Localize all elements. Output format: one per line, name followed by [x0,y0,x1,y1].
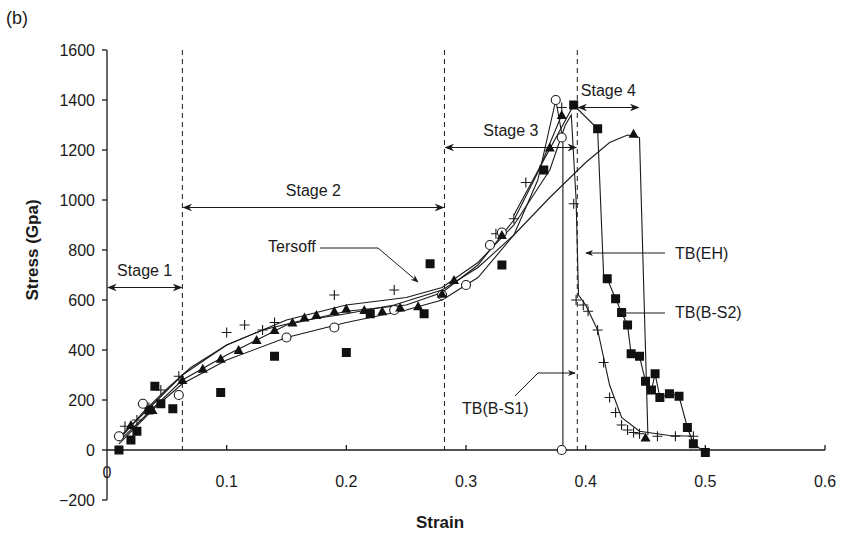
y-tick-label: 200 [68,392,95,409]
plus-marker [670,431,680,441]
square-marker [342,348,351,357]
square-marker [603,274,612,283]
circle-marker [551,96,560,105]
y-tick-label: 1000 [59,192,95,209]
square-marker [168,404,177,413]
y-tick-labels: −20002004006008001000120014001600 [59,42,95,509]
square-marker [647,386,656,395]
square-marker [675,392,684,401]
stage-label: Stage 3 [483,122,538,139]
triangle-marker [299,313,309,322]
y-tick-label: 0 [86,442,95,459]
x-tick-label: 0.3 [455,473,477,490]
circle-marker [114,432,123,441]
failure-drop [640,138,648,436]
square-marker [665,389,674,398]
circle-marker [174,391,183,400]
plus-marker [329,290,339,300]
square-marker [683,423,692,432]
square-marker [420,309,429,318]
y-tick-label: −200 [59,492,95,509]
plus-marker [652,431,662,441]
fit-curves [119,100,705,453]
y-axis-label: Stress (Gpa) [23,199,42,300]
plus-marker [222,328,232,338]
square-marker [623,321,632,330]
square-marker [569,101,578,110]
stress-strain-chart: (b) −20002004006008001000120014001600 00… [0,0,855,545]
plus-marker [240,320,250,330]
square-marker [114,446,123,455]
circle-marker [462,281,471,290]
data-markers [114,96,709,458]
stage-arrows: Stage 1Stage 2Stage 3Stage 4 [108,82,639,288]
annotation-arrow [515,373,575,396]
y-tick-label: 1600 [59,42,95,59]
triangle-marker [252,335,262,344]
fit-curve [119,115,562,441]
annotation-arrow [320,248,418,282]
x-tick-label: 0.1 [216,473,238,490]
square-marker [156,399,165,408]
square-marker [655,393,664,402]
circle-marker [330,323,339,332]
plus-marker [258,325,268,335]
plus-marker [623,425,633,435]
fit-curve [119,135,640,440]
plus-marker [509,214,519,224]
square-marker [651,369,660,378]
fit-curve [119,100,563,450]
square-marker [641,377,650,386]
square-marker [270,352,279,361]
annotation-label: TB(EH) [675,245,728,262]
y-tick-label: 1400 [59,92,95,109]
square-marker [701,448,710,457]
annotation-label: TB(B-S1) [462,400,529,417]
panel-label: (b) [6,8,28,28]
triangle-marker [198,364,208,373]
stage-label: Stage 1 [117,262,172,279]
circle-marker [485,241,494,250]
x-tick-label: 0.6 [814,473,836,490]
plus-marker [599,358,609,368]
x-tick-labels: 00.10.20.30.40.50.6 [103,464,837,490]
stage-label: Stage 4 [581,82,636,99]
y-tick-label: 800 [68,242,95,259]
x-axis-label: Strain [416,513,464,532]
square-marker [216,388,225,397]
y-tick-label: 400 [68,342,95,359]
x-tick-label: 0.5 [694,473,716,490]
triangle-marker [234,345,244,354]
x-tick-label: 0 [103,464,112,481]
circle-marker [282,333,291,342]
triangle-marker [216,354,226,363]
triangle-marker [629,129,639,138]
square-marker [635,352,644,361]
circle-marker [138,399,147,408]
square-marker [539,166,548,175]
axes [102,50,825,500]
plus-marker [617,420,627,430]
square-marker [627,349,636,358]
square-marker [126,436,135,445]
square-marker [593,124,602,133]
square-marker [426,259,435,268]
triangle-marker [126,420,136,429]
x-tick-label: 0.2 [335,473,357,490]
plus-marker [593,325,603,335]
plus-marker [389,285,399,295]
square-marker [611,294,620,303]
square-marker [497,261,506,270]
plus-marker [611,408,621,418]
square-marker [689,439,698,448]
stage-label: Stage 2 [286,182,341,199]
annotation-label: Tersoff [268,238,316,255]
square-marker [150,382,159,391]
circle-marker [557,446,566,455]
annotation-label: TB(B-S2) [675,304,742,321]
y-tick-label: 600 [68,292,95,309]
y-tick-label: 1200 [59,142,95,159]
x-tick-label: 0.4 [575,473,597,490]
plus-marker [583,306,593,316]
circle-marker [557,133,566,142]
